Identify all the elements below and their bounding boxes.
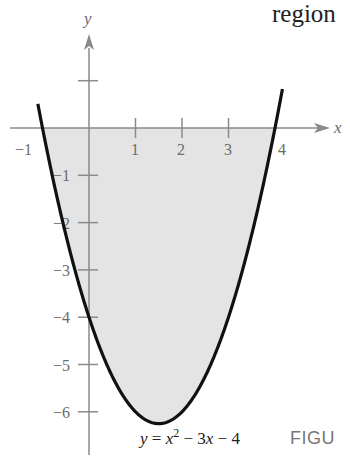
- parabola-chart: −11234 −1−2−3−4−5−6 x y y = x2 − 3x − 4: [0, 0, 350, 457]
- x-tick-label: 2: [177, 141, 185, 158]
- y-tick-label: −3: [53, 262, 70, 279]
- figure-caption-fragment: FIGU: [290, 428, 335, 449]
- x-tick-label: 4: [278, 141, 286, 158]
- x-tick-label: 3: [224, 141, 232, 158]
- x-tick-label: −1: [15, 141, 32, 158]
- x-axis-label: x: [333, 118, 342, 137]
- y-tick-label: −1: [53, 167, 70, 184]
- y-tick-label: −5: [53, 357, 70, 374]
- equation-label: y = x2 − 3x − 4: [138, 426, 240, 448]
- y-axis-arrow-icon: [84, 34, 94, 50]
- y-axis-label: y: [82, 9, 92, 28]
- y-tick-label: −4: [53, 309, 70, 326]
- x-tick-label: 1: [131, 141, 139, 158]
- y-tick-label: −6: [53, 404, 70, 421]
